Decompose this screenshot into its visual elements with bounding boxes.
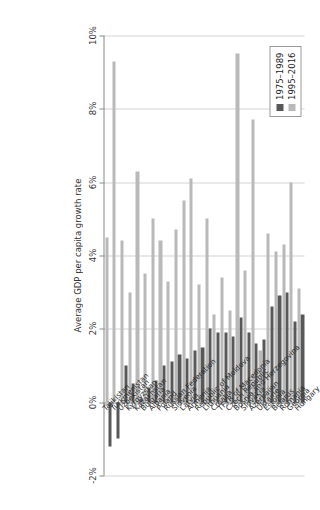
value-axis-tick-label: 4% <box>87 241 97 269</box>
bar <box>285 292 288 402</box>
bar <box>120 240 123 401</box>
value-axis-title: Average GDP per capita growth rate <box>72 35 82 475</box>
bar <box>174 229 177 401</box>
bar <box>105 237 108 402</box>
bar <box>197 284 200 401</box>
bar <box>135 171 138 402</box>
bar <box>289 182 292 402</box>
bar <box>282 244 285 402</box>
gridline <box>104 475 304 476</box>
value-axis-tick-label: 0% <box>87 388 97 416</box>
bar <box>182 200 185 402</box>
gridline <box>104 182 304 183</box>
bar <box>151 218 154 401</box>
gridline <box>104 35 304 36</box>
chart-canvas: 10%8%6%4%2%0%-2%HungaryGeorgiaRomaniaBel… <box>0 0 317 510</box>
value-axis-tick-label: -2% <box>87 461 97 489</box>
bar <box>189 178 192 402</box>
legend-swatch <box>288 104 295 111</box>
legend-item: 1975–1989 <box>273 52 285 111</box>
bar <box>112 61 115 402</box>
legend-swatch <box>276 104 283 111</box>
bar <box>235 53 238 401</box>
value-axis-tick-label: 10% <box>87 21 97 49</box>
value-axis-tick-label: 2% <box>87 314 97 342</box>
chart-legend: 1975–19891995–2016 <box>269 46 301 117</box>
legend-label: 1995–2016 <box>285 52 297 100</box>
legend-label: 1975–1989 <box>273 52 285 100</box>
legend-item: 1995–2016 <box>285 52 297 111</box>
gdp-growth-bar-chart: 10%8%6%4%2%0%-2%HungaryGeorgiaRomaniaBel… <box>0 0 317 510</box>
value-axis-tick-label: 6% <box>87 168 97 196</box>
value-axis-tick-label: 8% <box>87 94 97 122</box>
